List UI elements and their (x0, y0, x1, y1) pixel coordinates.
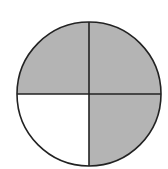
quadrant-bottom-right (89, 94, 161, 166)
quadrant-bottom-left (17, 94, 89, 166)
quadrant-top-right (89, 22, 161, 94)
fraction-circle-diagram (0, 0, 168, 169)
quadrant-top-left (17, 22, 89, 94)
